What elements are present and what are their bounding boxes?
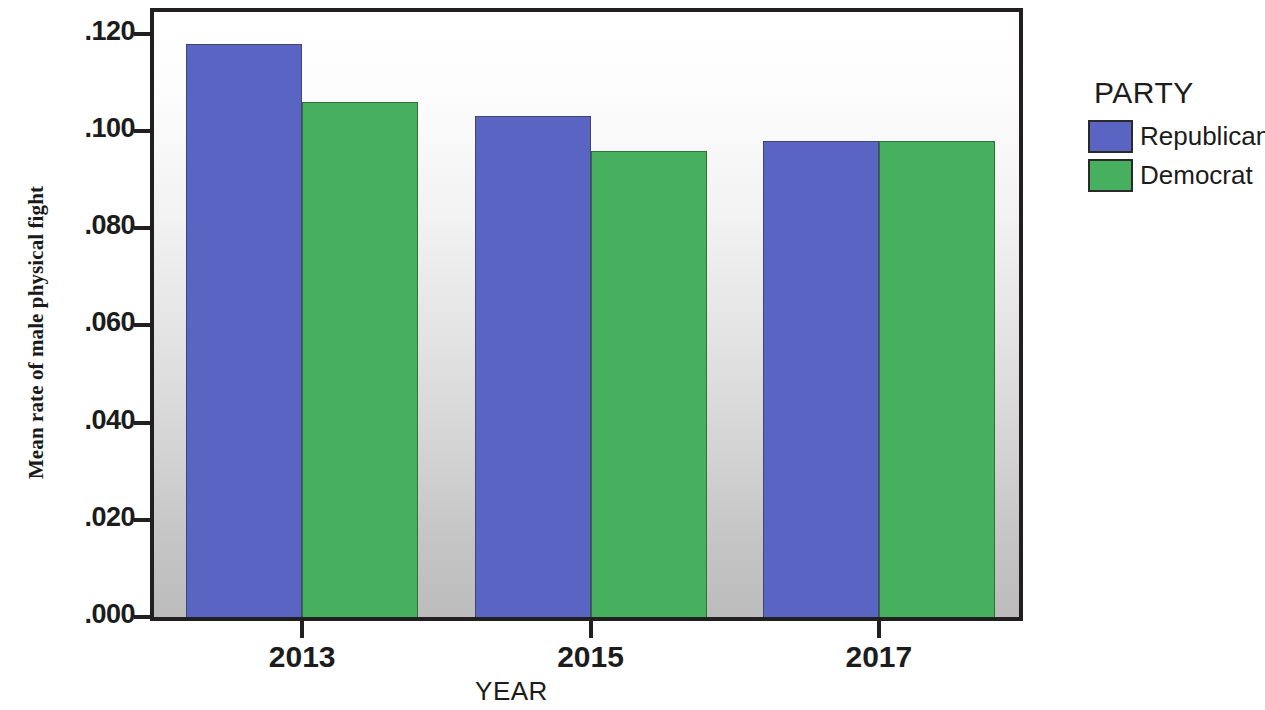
legend-items: RepublicanDemocrat bbox=[1088, 120, 1263, 192]
legend-title: PARTY bbox=[1094, 76, 1263, 110]
bar-2017-republican[interactable] bbox=[763, 141, 879, 617]
y-tick-label: .040 bbox=[25, 405, 135, 436]
x-axis-title: YEAR bbox=[0, 676, 1023, 707]
legend: PARTY RepublicanDemocrat bbox=[1088, 76, 1263, 198]
x-tick-label: 2013 bbox=[222, 640, 382, 674]
legend-item-democrat[interactable]: Democrat bbox=[1088, 159, 1263, 192]
bar-2015-republican[interactable] bbox=[475, 116, 591, 617]
y-tick-label: .120 bbox=[25, 16, 135, 47]
legend-item-republican[interactable]: Republican bbox=[1088, 120, 1263, 153]
y-tick-label: .100 bbox=[25, 113, 135, 144]
x-tick-mark bbox=[300, 621, 304, 638]
legend-label: Democrat bbox=[1140, 160, 1253, 191]
x-tick-label: 2017 bbox=[799, 640, 959, 674]
y-tick-label: .080 bbox=[25, 210, 135, 241]
bar-2017-democrat[interactable] bbox=[879, 141, 995, 617]
legend-label: Republican bbox=[1140, 121, 1265, 152]
x-tick-label: 2015 bbox=[511, 640, 671, 674]
bar-chart-figure: Mean rate of male physical fight .120.10… bbox=[0, 0, 1265, 710]
y-tick-label: .060 bbox=[25, 307, 135, 338]
y-tick-label: .020 bbox=[25, 502, 135, 533]
bars-layer bbox=[154, 12, 1019, 617]
bar-2013-democrat[interactable] bbox=[302, 102, 418, 617]
bar-2013-republican[interactable] bbox=[186, 44, 302, 617]
x-tick-mark bbox=[877, 621, 881, 638]
bar-2015-democrat[interactable] bbox=[591, 151, 707, 618]
legend-swatch-democrat bbox=[1088, 159, 1133, 192]
legend-swatch-republican bbox=[1088, 120, 1133, 153]
x-tick-mark bbox=[589, 621, 593, 638]
plot-area bbox=[150, 8, 1023, 621]
y-tick-label: .000 bbox=[25, 599, 135, 630]
